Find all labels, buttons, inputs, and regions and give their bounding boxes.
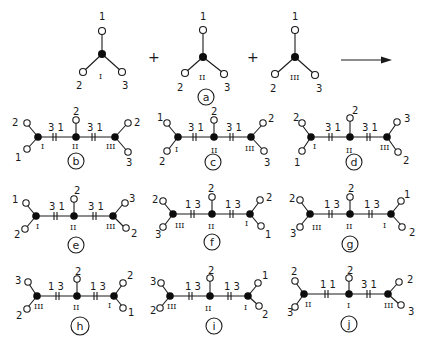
panel-label-g: g: [347, 238, 354, 251]
svg-text:III: III: [245, 144, 254, 153]
svg-text:2: 2: [268, 113, 274, 124]
bond-label: 3 1: [362, 122, 378, 133]
svg-text:2: 2: [16, 310, 22, 321]
panel-label-a: a: [198, 89, 214, 105]
svg-text:2: 2: [14, 229, 20, 240]
bond-label: 1 3: [364, 199, 380, 210]
svg-text:3: 3: [290, 228, 296, 239]
svg-text:I: I: [108, 301, 111, 310]
port-right: [119, 69, 126, 76]
product-b: 3 1 3 1 2 1 2 2 3 I II III b: [12, 106, 140, 169]
product-j: 1 1 3 1 2 3 2 2 3 II I III j: [287, 265, 414, 332]
plus-operator: +: [148, 49, 160, 65]
panel-label-b: b: [73, 155, 80, 168]
svg-text:1: 1: [128, 307, 134, 318]
svg-text:1: 1: [157, 112, 163, 123]
svg-text:I: I: [245, 219, 248, 228]
core-node: [291, 53, 299, 61]
port-label: 1: [200, 11, 206, 22]
bond-label: 1 3: [48, 281, 64, 292]
bond-label: 1 3: [90, 281, 106, 292]
svg-text:2: 2: [75, 266, 81, 277]
svg-text:II: II: [205, 304, 211, 313]
svg-text:2: 2: [262, 309, 268, 320]
plus-operator: +: [247, 49, 259, 65]
svg-text:3: 3: [408, 306, 414, 317]
svg-text:a: a: [203, 91, 210, 104]
port-left: [272, 71, 279, 78]
port-top: [99, 28, 106, 35]
monomer-II: 1 2 3 II: [177, 11, 230, 93]
svg-text:III: III: [167, 302, 176, 311]
svg-text:II: II: [73, 303, 79, 312]
port-label: 3: [316, 83, 322, 94]
svg-text:2: 2: [266, 192, 272, 203]
svg-text:I: I: [175, 145, 178, 154]
svg-text:3: 3: [264, 157, 270, 168]
panel-label-d: d: [351, 156, 358, 169]
svg-text:II: II: [305, 300, 311, 309]
svg-text:2: 2: [352, 105, 358, 116]
bond-label: 3 1: [226, 122, 242, 133]
svg-text:2: 2: [409, 227, 415, 238]
bond-label: 1 1: [320, 279, 336, 290]
svg-text:I: I: [41, 142, 44, 151]
monomer-I: 1 2 3 I: [76, 11, 128, 91]
port-label: 3: [224, 82, 230, 93]
svg-text:2: 2: [347, 265, 353, 276]
port-label: 2: [76, 80, 82, 91]
bond-label: 1 3: [225, 199, 241, 210]
svg-text:I: I: [347, 301, 350, 310]
svg-text:1: 1: [12, 194, 18, 205]
svg-text:3: 3: [126, 157, 132, 168]
trimer-diagram: 1 2 3 I + 1 2 3 II + 1 2 3 III: [0, 0, 426, 349]
bond-label: 3 1: [48, 122, 64, 133]
product-d: 3 1 3 1 2 1 2 3 2 I II III d: [293, 105, 410, 170]
bond-label: 3 1: [188, 122, 204, 133]
bond-label: 1 3: [185, 199, 201, 210]
bond-label: 3 1: [88, 201, 104, 212]
port-label: 2: [177, 82, 183, 93]
port-label: 3: [122, 80, 128, 91]
port-right: [221, 71, 228, 78]
roman-label: III: [290, 73, 299, 82]
product-e: 3 1 3 1 1 2 2 3 2 I II III e: [12, 185, 137, 253]
svg-text:2: 2: [208, 183, 214, 194]
roman-label: II: [199, 73, 205, 82]
svg-text:I: I: [383, 221, 386, 230]
product-c: 3 1 3 1 1 2 2 2 3 I II III c: [157, 106, 274, 170]
reaction-arrow: [341, 57, 392, 64]
svg-text:3: 3: [404, 113, 410, 124]
product-g: 1 3 1 3 2 3 2 1 2 III II I g: [289, 183, 415, 252]
svg-text:II: II: [208, 222, 214, 231]
bond-label: 3 1: [49, 201, 65, 212]
bond-label: 3 1: [325, 122, 341, 133]
svg-text:1: 1: [404, 189, 410, 200]
svg-text:III: III: [384, 301, 393, 310]
svg-text:3: 3: [15, 275, 21, 286]
panel-label-e: e: [73, 239, 80, 252]
svg-text:3: 3: [155, 229, 161, 240]
svg-text:II: II: [346, 222, 352, 231]
svg-text:1: 1: [15, 152, 21, 163]
svg-text:I: I: [36, 222, 39, 231]
svg-text:2: 2: [403, 155, 409, 166]
svg-text:2: 2: [131, 228, 137, 239]
panel-label-f: f: [210, 236, 215, 249]
panel-label-h: h: [77, 320, 84, 333]
svg-text:I: I: [244, 303, 247, 312]
roman-label: I: [99, 72, 102, 81]
svg-text:2: 2: [291, 266, 297, 277]
core-node: [98, 50, 106, 58]
svg-text:I: I: [313, 142, 316, 151]
svg-text:2: 2: [348, 183, 354, 194]
monomer-III: 1 2 3 III: [270, 11, 322, 94]
svg-text:2: 2: [73, 106, 79, 117]
bond-label: 3 1: [361, 279, 377, 290]
svg-text:3: 3: [150, 276, 156, 287]
svg-text:II: II: [72, 142, 78, 151]
svg-text:3: 3: [129, 193, 135, 204]
svg-text:2: 2: [127, 270, 133, 281]
svg-text:II: II: [346, 146, 352, 155]
port-top: [200, 27, 207, 34]
